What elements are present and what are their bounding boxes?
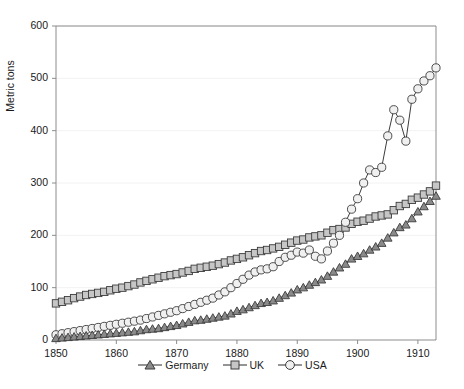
plot-canvas <box>0 0 464 389</box>
data-point <box>432 182 439 189</box>
data-point <box>317 255 325 263</box>
x-tick-label: 1900 <box>335 347 381 359</box>
data-point <box>408 95 416 103</box>
chart-figure: Metric tons Germany UK USA 0100200300400… <box>0 0 464 389</box>
x-tick-label: 1850 <box>33 347 79 359</box>
y-tick-label: 0 <box>8 333 48 345</box>
germany-marker-icon <box>137 358 163 372</box>
x-tick-label: 1860 <box>93 347 139 359</box>
data-point <box>353 195 361 203</box>
y-tick-label: 300 <box>8 176 48 188</box>
data-point <box>390 106 398 114</box>
series-markers-usa <box>52 64 440 339</box>
data-point <box>378 163 386 171</box>
y-tick-label: 600 <box>8 19 48 31</box>
data-point <box>402 137 410 145</box>
series-line-usa <box>56 68 436 335</box>
x-tick-label: 1870 <box>154 347 200 359</box>
y-tick-label: 100 <box>8 281 48 293</box>
data-point <box>426 72 434 80</box>
y-tick-label: 200 <box>8 228 48 240</box>
legend-label-uk: UK <box>250 359 265 371</box>
y-tick-label: 400 <box>8 124 48 136</box>
data-point <box>396 116 404 124</box>
data-point <box>384 132 392 140</box>
legend-label-germany: Germany <box>165 359 208 371</box>
x-tick-label: 1890 <box>274 347 320 359</box>
chart-legend: Germany UK USA <box>0 358 464 372</box>
legend-item-uk[interactable]: UK <box>222 358 265 372</box>
legend-label-usa: USA <box>305 359 327 371</box>
y-tick-label: 500 <box>8 71 48 83</box>
x-tick-label: 1880 <box>214 347 260 359</box>
data-point <box>414 85 422 93</box>
data-point <box>347 205 355 213</box>
data-point <box>341 218 349 226</box>
usa-marker-icon <box>277 358 303 372</box>
data-point <box>360 179 368 187</box>
data-point <box>335 231 343 239</box>
uk-marker-icon <box>222 358 248 372</box>
data-point <box>329 239 337 247</box>
legend-item-usa[interactable]: USA <box>277 358 327 372</box>
data-point <box>323 247 331 255</box>
data-point <box>432 64 440 72</box>
legend-item-germany[interactable]: Germany <box>137 358 208 372</box>
data-point <box>305 246 313 254</box>
x-tick-label: 1910 <box>395 347 441 359</box>
